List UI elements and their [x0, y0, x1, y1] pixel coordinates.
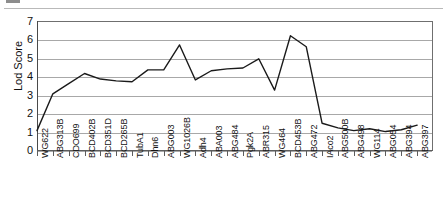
y-axis-tick-labels: 01234567	[5, 0, 33, 222]
y-axis-tick-label: 1	[9, 127, 33, 138]
x-axis-tick	[211, 150, 212, 156]
x-axis-tick	[148, 150, 149, 156]
x-axis-tick	[370, 150, 371, 156]
x-axis-tick-label: CDO699	[72, 124, 81, 158]
x-axis-tick	[100, 150, 101, 156]
x-axis-tick	[290, 150, 291, 156]
x-axis-tick-label: BCD402B	[88, 119, 97, 158]
gridline	[38, 96, 432, 97]
x-axis-tick-label: ABG313B	[56, 119, 65, 158]
x-axis-tick	[195, 150, 196, 156]
y-axis-tick-label: 6	[9, 34, 33, 45]
x-axis-tick-label: BCD351D	[104, 118, 113, 158]
x-axis-tick-label: ABR315	[262, 125, 271, 158]
y-axis-spine	[37, 21, 38, 151]
x-axis-tick-label: ABA003	[215, 126, 224, 158]
x-axis-tick-label: ABG472	[310, 125, 319, 158]
gridline	[38, 40, 432, 41]
gridline	[38, 114, 432, 115]
y-axis-tick-label: 5	[9, 53, 33, 64]
x-axis-tick	[116, 150, 117, 156]
x-axis-tick-label: ABG500B	[341, 119, 350, 158]
x-axis-tick-label: BCD453B	[294, 119, 303, 158]
x-axis-tick	[338, 150, 339, 156]
x-axis-tick	[132, 150, 133, 156]
x-axis-tick	[385, 150, 386, 156]
x-axis-tick-label: IAco2	[326, 135, 335, 158]
x-axis-tick-label: Dhn6	[151, 137, 160, 158]
x-axis-tick-label: ABG397	[421, 125, 430, 158]
x-axis-tick-label: ABG003	[167, 125, 176, 158]
x-axis-tick	[417, 150, 418, 156]
x-axis-tick	[180, 150, 181, 156]
y-axis-tick-label: 4	[9, 71, 33, 82]
x-axis-tick-label: ABG054	[389, 125, 398, 158]
y-axis-tick-label: 7	[9, 16, 33, 27]
x-axis-tick	[37, 150, 38, 156]
x-axis-tick-label: Pgk2A	[246, 132, 255, 158]
x-axis-tick	[401, 150, 402, 156]
x-axis-tick-label: ABG498	[357, 125, 366, 158]
x-axis-tick	[354, 150, 355, 156]
x-axis-tick-label: Adh4	[199, 137, 208, 158]
y-axis-tick-label: 3	[9, 90, 33, 101]
x-axis-tick-label: WG1026B	[183, 117, 192, 158]
x-axis-tick	[85, 150, 86, 156]
x-axis-tick	[322, 150, 323, 156]
x-axis-tick-label: BCD265B	[120, 119, 129, 158]
lod-score-line-chart: Lod Score 01234567 WG622ABG313BCDO699BCD…	[0, 0, 447, 222]
x-axis-tick-label: WG114	[373, 129, 382, 158]
x-axis-tick-label: ABG394	[405, 125, 414, 158]
x-axis-tick	[227, 150, 228, 156]
x-axis-tick	[259, 150, 260, 156]
x-axis-tick	[69, 150, 70, 156]
x-axis-tick-label: WG622	[41, 128, 50, 158]
gridline	[38, 59, 432, 60]
x-axis-tick-label: WG464	[278, 128, 287, 158]
y-axis-tick-label: 0	[9, 145, 33, 156]
x-axis-tick	[164, 150, 165, 156]
gridline	[38, 77, 432, 78]
x-axis-tick-label: ABG484	[231, 125, 240, 158]
x-axis-tick	[306, 150, 307, 156]
y-axis-tick-label: 2	[9, 108, 33, 119]
x-axis-tick-label: TubA1	[136, 132, 145, 158]
x-axis-tick	[53, 150, 54, 156]
x-axis-tick	[243, 150, 244, 156]
x-axis-tick	[275, 150, 276, 156]
